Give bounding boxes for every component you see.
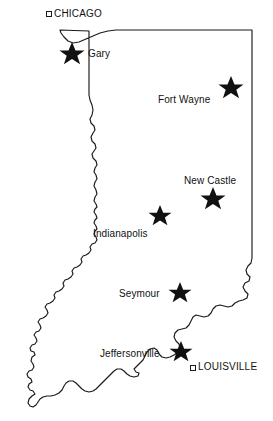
star-marker-gary [60,42,85,64]
square-marker-louisville [191,366,196,371]
city-label-gary: Gary [88,48,110,59]
city-label-indianapolis: Indianapolis [93,228,148,239]
city-label-seymour: Seymour [119,288,160,299]
city-label-new-castle: New Castle [184,175,236,186]
square-marker-chicago [47,12,52,17]
indiana-map: Gary Fort Wayne New Castle Indianapolis … [0,0,273,421]
city-label-fort-wayne: Fort Wayne [158,94,210,105]
city-label-jeffersonville: Jeffersonville [100,348,160,359]
city-label-chicago: CHICAGO [54,8,102,19]
city-label-louisville: LOUISVILLE [198,361,257,372]
